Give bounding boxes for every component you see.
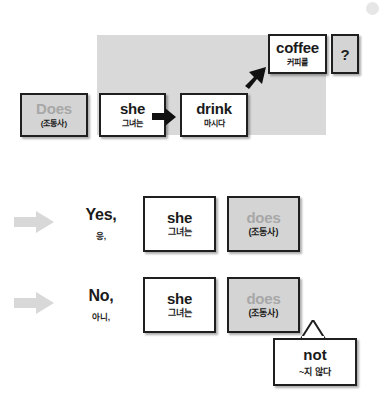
card-korean-text: (조동사) — [41, 120, 67, 129]
card-object-coffee[interactable]: coffee 커피를 — [268, 34, 327, 74]
answer-label-no: No, 아니, — [72, 287, 130, 322]
card-subject-she-yes[interactable]: she 그녀는 — [143, 196, 216, 252]
card-korean-text: 마시다 — [204, 120, 225, 129]
card-english-text: she — [167, 291, 192, 307]
card-korean-text: 커피를 — [287, 59, 308, 68]
card-aux-does[interactable]: Does (조동사) — [20, 93, 88, 137]
card-english-text: does — [246, 210, 280, 226]
card-question-mark[interactable]: ? — [331, 34, 359, 74]
block-arrow-right-icon — [14, 292, 54, 314]
callout-korean-text: ~지 않다 — [299, 365, 331, 378]
callout-english-text: not — [303, 347, 326, 362]
answer-english-text: Yes, — [86, 206, 117, 223]
card-korean-text: (조동사) — [249, 309, 279, 319]
answer-english-text: No, — [89, 287, 114, 304]
question-mark-glyph: ? — [340, 46, 349, 63]
answer-korean-text: 아니, — [72, 310, 130, 322]
card-subject-she-no[interactable]: she 그녀는 — [143, 277, 216, 333]
card-aux-does-yes[interactable]: does (조동사) — [227, 196, 300, 252]
card-korean-text: 그녀는 — [122, 120, 143, 129]
arrow-up-right-icon — [242, 62, 270, 92]
card-korean-text: 그녀는 — [168, 309, 192, 319]
answer-label-yes: Yes, 응, — [72, 206, 130, 241]
card-korean-text: (조동사) — [249, 228, 279, 238]
card-korean-text: 그녀는 — [168, 228, 192, 238]
block-arrow-right-icon — [14, 211, 54, 233]
card-english-text: she — [167, 210, 192, 226]
corner-smudge-artifact — [366, 2, 379, 15]
callout-not[interactable]: not ~지 않다 — [273, 338, 357, 386]
card-english-text: she — [120, 101, 145, 117]
answer-korean-text: 응, — [72, 229, 130, 241]
card-english-text: does — [246, 291, 280, 307]
card-english-text: Does — [36, 101, 72, 117]
card-aux-does-no[interactable]: does (조동사) — [227, 277, 300, 333]
arrow-right-icon — [150, 106, 178, 128]
card-english-text: drink — [196, 101, 232, 117]
card-english-text: coffee — [276, 40, 319, 56]
card-verb-drink[interactable]: drink 마시다 — [180, 93, 248, 137]
callout-tail-icon — [300, 320, 326, 340]
